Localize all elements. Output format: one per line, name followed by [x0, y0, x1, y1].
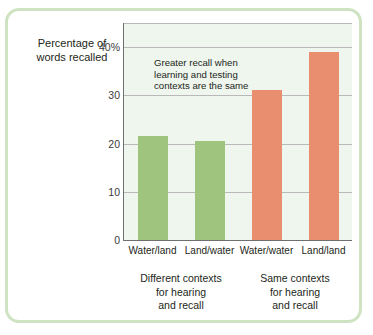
y-tick-label-30: 30 — [80, 89, 120, 101]
group-label-line-2: for hearing — [140, 286, 222, 300]
y-tick-label-40: 40% — [80, 41, 120, 53]
annotation-line-1: Greater recall when — [154, 57, 282, 69]
group-label-line-2: for hearing — [260, 286, 329, 300]
y-axis-ticks: 010203040% — [76, 23, 120, 241]
annotation-line-3: contexts are the same — [154, 80, 282, 92]
y-tick-label-10: 10 — [80, 186, 120, 198]
y-tick-label-20: 20 — [80, 138, 120, 150]
group-label-different-contexts: Different contextsfor hearingand recall — [140, 272, 222, 313]
gridline-40 — [124, 47, 352, 48]
y-axis-line — [123, 23, 124, 241]
y-tick-label-0: 0 — [80, 234, 120, 246]
plot-area — [124, 23, 352, 241]
category-label-land-land: Land/land — [302, 245, 346, 256]
x-axis-line — [124, 240, 352, 241]
group-label-line-1: Same contexts — [260, 272, 329, 286]
bar-land-water — [195, 141, 225, 241]
chart-figure: Percentage of words recalled 010203040% … — [0, 0, 373, 335]
bar-land-land — [309, 52, 339, 242]
group-label-line-1: Different contexts — [140, 272, 222, 286]
category-label-land-water: Land/water — [185, 245, 234, 256]
bar-water-water — [252, 90, 282, 241]
category-label-water-land: Water/land — [129, 245, 177, 256]
group-label-line-3: and recall — [260, 299, 329, 313]
annotation-line-2: learning and testing — [154, 69, 282, 81]
group-label-line-3: and recall — [140, 299, 222, 313]
group-label-same-contexts: Same contextsfor hearingand recall — [260, 272, 329, 313]
category-label-water-water: Water/water — [240, 245, 294, 256]
chart-annotation: Greater recall when learning and testing… — [154, 57, 282, 92]
bar-water-land — [138, 136, 168, 241]
